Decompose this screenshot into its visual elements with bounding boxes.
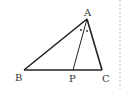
segment-ca bbox=[87, 19, 102, 70]
angle-mark-dot-left bbox=[80, 29, 82, 31]
label-p: P bbox=[69, 73, 76, 84]
segment-ab bbox=[24, 19, 87, 70]
segment-ap bbox=[73, 19, 87, 70]
label-c: C bbox=[102, 73, 110, 84]
label-a: A bbox=[83, 7, 92, 18]
angle-mark-dot-right bbox=[86, 30, 88, 32]
label-b: B bbox=[15, 72, 22, 83]
triangle-diagram: A B P C bbox=[0, 0, 123, 89]
